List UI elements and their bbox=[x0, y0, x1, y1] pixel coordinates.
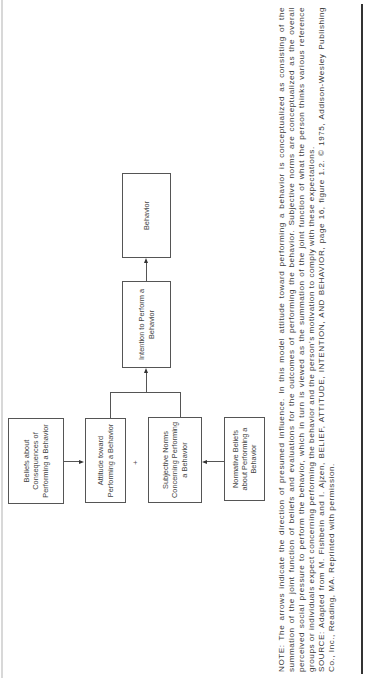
intention-to-behavior-line bbox=[146, 263, 147, 281]
plus-sign: + bbox=[131, 460, 140, 465]
beliefs-to-attitude-arrowhead bbox=[79, 460, 84, 464]
beliefs-box: Beliefs about Consequences of Performing… bbox=[8, 418, 64, 504]
normative-to-subjective-line bbox=[207, 461, 224, 462]
joint-to-intention-arrowhead bbox=[144, 368, 148, 373]
caption-note: NOTE: The arrows indicate the direction … bbox=[277, 7, 317, 672]
bottom-rule bbox=[361, 4, 363, 674]
figure-caption: NOTE: The arrows indicate the direction … bbox=[277, 7, 336, 672]
subjective-connector bbox=[180, 393, 181, 417]
beliefs-label: Beliefs about Consequences of Performing… bbox=[22, 421, 50, 501]
normative-beliefs-label: Normative Beliefs about Performing a Beh… bbox=[231, 420, 259, 498]
attitude-connector bbox=[110, 393, 111, 418]
normative-beliefs-box: Normative Beliefs about Performing a Beh… bbox=[224, 417, 265, 501]
joint-to-intention-line bbox=[146, 373, 147, 393]
intention-to-behavior-arrowhead bbox=[144, 258, 148, 263]
attitude-label: Attitude toward Performing a Behavior bbox=[96, 421, 114, 500]
behavior-box: Behavior bbox=[122, 173, 171, 258]
subjective-norms-box: Subjective Norms Concerning Performing a… bbox=[148, 417, 202, 503]
intention-label: Intention to Perform a Behavior bbox=[137, 284, 155, 365]
behavior-label: Behavior bbox=[142, 201, 151, 230]
rotated-page: Beliefs about Consequences of Performing… bbox=[0, 0, 369, 678]
beliefs-to-attitude-line bbox=[64, 461, 80, 462]
intention-box: Intention to Perform a Behavior bbox=[122, 281, 171, 368]
attitude-box: Attitude toward Performing a Behavior bbox=[85, 418, 126, 503]
subjective-norms-label: Subjective Norms Concerning Performing a… bbox=[161, 420, 189, 500]
caption-source: SOURCE: Adapted from M. Fishbein and I. … bbox=[317, 7, 337, 672]
normative-to-subjective-arrowhead bbox=[202, 460, 207, 464]
